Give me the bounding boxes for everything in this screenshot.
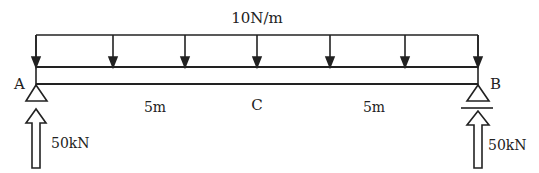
load-arrow-head-icon <box>326 57 334 67</box>
distributed-load <box>32 35 482 67</box>
midpoint-c-label: C <box>251 96 262 114</box>
support-a-label: A <box>13 75 25 93</box>
support-b-roller-icon <box>467 85 489 101</box>
load-arrows <box>32 35 482 67</box>
load-arrow-head-icon <box>181 57 189 67</box>
reaction-a-arrow-icon <box>26 109 46 168</box>
reaction-a-label: 50kN <box>51 135 90 151</box>
beam-diagram: 10N/m A B 5m C 5m 50kN 50kN <box>0 0 539 173</box>
load-label: 10N/m <box>231 9 283 27</box>
support-a-pin-icon <box>26 85 47 101</box>
load-arrow-head-icon <box>401 57 409 67</box>
reaction-b-label: 50kN <box>488 137 527 153</box>
reaction-b-arrow-icon <box>467 111 489 168</box>
span-ac-label: 5m <box>144 99 166 115</box>
load-arrow-head-icon <box>109 57 117 67</box>
span-cb-label: 5m <box>363 99 385 115</box>
support-b-label: B <box>490 75 501 93</box>
load-arrow-head-icon <box>253 57 261 67</box>
